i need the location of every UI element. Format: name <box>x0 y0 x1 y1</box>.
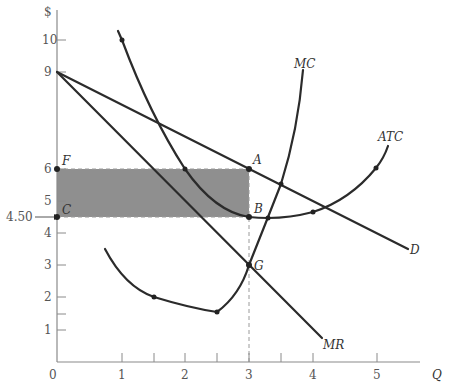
chart: $ 10 9 6 5 4 3 2 1 4.50 0 1 2 3 4 5 Q MC… <box>0 0 452 386</box>
x-tick-2: 2 <box>181 368 189 382</box>
demand-curve <box>57 72 408 249</box>
atc-label: ATC <box>377 130 403 144</box>
profit-area <box>57 169 249 217</box>
d-label: D <box>409 243 420 257</box>
y-tick-4: 4 <box>44 226 52 240</box>
point-c-label: C <box>62 203 71 217</box>
mc-label: MC <box>293 57 315 71</box>
point-b-label: B <box>253 202 263 216</box>
y-tick-6: 6 <box>44 162 52 176</box>
origin-label: 0 <box>49 368 57 382</box>
mr-label: MR <box>322 338 344 352</box>
y-tick-10: 10 <box>42 33 57 47</box>
y-tick-3: 3 <box>44 258 52 272</box>
point-a-label: A <box>252 153 262 167</box>
y-axis-label: $ <box>44 5 52 19</box>
y-tick-5: 5 <box>44 194 52 208</box>
x-tick-4: 4 <box>309 368 317 382</box>
x-ticks <box>122 353 377 362</box>
point-g-label: G <box>254 259 264 273</box>
point-f-label: F <box>61 154 71 168</box>
x-tick-3: 3 <box>245 368 253 382</box>
x-tick-1: 1 <box>118 368 126 382</box>
x-axis-label: Q <box>432 368 442 382</box>
y-special-label: 4.50 <box>6 210 33 224</box>
y-tick-9: 9 <box>44 65 52 79</box>
y-tick-1: 1 <box>44 323 52 337</box>
x-tick-5: 5 <box>373 368 381 382</box>
y-tick-2: 2 <box>44 290 52 304</box>
